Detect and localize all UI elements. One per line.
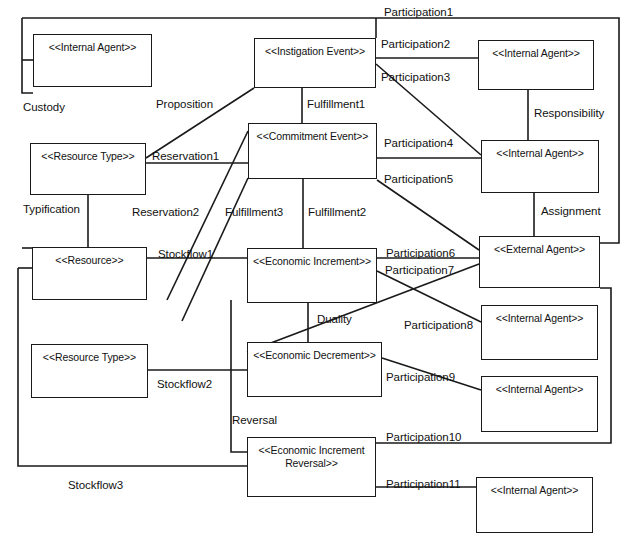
connector-custody-line: [22, 18, 33, 93]
node-internal_agent_5[interactable]: <<Internal Agent>>: [481, 376, 598, 432]
node-instigation_event[interactable]: <<Instigation Event>>: [254, 38, 376, 88]
edge-label-participation5: Participation5: [384, 173, 453, 186]
edge-label-reservation2: Reservation2: [132, 206, 199, 219]
node-economic_increment_reversal[interactable]: <<Economic Increment Reversal>>: [247, 437, 376, 497]
edge-label-assignment: Assignment: [541, 205, 601, 218]
connector-participation5-line: [377, 180, 479, 250]
edge-label-participation2: Participation2: [381, 38, 450, 51]
edge-label-stockflow1: Stockflow1: [158, 248, 213, 261]
edge-label-responsibility: Responsibility: [534, 107, 604, 120]
node-commitment_event[interactable]: <<Commitment Event>>: [248, 123, 377, 179]
edge-label-participation6: Participation6: [386, 247, 455, 260]
node-internal_agent_1[interactable]: <<Internal Agent>>: [33, 34, 152, 87]
edge-label-fulfillment1: Fulfillment1: [307, 98, 365, 111]
node-economic_decrement[interactable]: <<Economic Decrement>>: [247, 342, 382, 397]
node-resource[interactable]: <<Resource>>: [32, 247, 147, 300]
edge-label-duality: Duality: [317, 313, 352, 326]
edge-label-fulfillment2: Fulfillment2: [308, 206, 366, 219]
edge-label-participation4: Participation4: [384, 137, 453, 150]
edge-label-participation7: Participation7: [385, 264, 454, 277]
node-resource_type_1[interactable]: <<Resource Type>>: [30, 143, 146, 195]
edge-label-participation8: Participation8: [404, 319, 473, 332]
node-internal_agent_4[interactable]: <<Internal Agent>>: [481, 305, 598, 360]
edge-label-stockflow3: Stockflow3: [68, 479, 123, 492]
edge-label-reservation1: Reservation1: [152, 150, 219, 163]
node-resource_type_2[interactable]: <<Resource Type>>: [31, 344, 148, 398]
edge-label-participation10: Participation10: [386, 431, 461, 444]
edge-label-participation1: Participation1: [384, 6, 453, 19]
edge-label-fulfillment3: Fulfillment3: [225, 206, 283, 219]
node-external_agent[interactable]: <<External Agent>>: [479, 236, 600, 288]
edge-label-proposition: Proposition: [156, 98, 213, 111]
edge-label-typification: Typification: [23, 203, 80, 216]
edge-label-reversal: Reversal: [232, 414, 277, 427]
node-economic_increment[interactable]: <<Economic Increment>>: [247, 248, 377, 303]
edge-label-stockflow2: Stockflow2: [157, 378, 212, 391]
node-internal_agent_2[interactable]: <<Internal Agent>>: [478, 40, 594, 90]
edge-label-custody: Custody: [23, 101, 65, 114]
edge-label-participation9: Participation9: [386, 371, 455, 384]
edge-label-participation11: Participation11: [386, 478, 460, 491]
diagram-canvas: <<Internal Agent>><<Instigation Event>><…: [0, 0, 638, 548]
node-internal_agent_3[interactable]: <<Internal Agent>>: [481, 140, 599, 193]
node-internal_agent_6[interactable]: <<Internal Agent>>: [476, 477, 593, 533]
connector-reversal-line: [231, 300, 247, 452]
edge-label-participation3: Participation3: [381, 71, 450, 84]
